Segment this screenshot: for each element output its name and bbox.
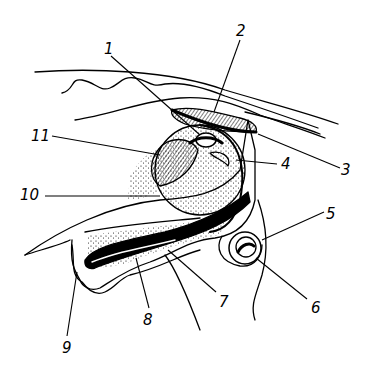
label-7: 7 xyxy=(219,295,229,310)
label-9: 9 xyxy=(62,341,72,356)
label-5: 5 xyxy=(326,207,336,222)
label-8: 8 xyxy=(143,313,153,328)
label-4: 4 xyxy=(281,157,291,172)
diagram-canvas: 1 2 3 4 5 6 7 8 9 10 11 xyxy=(0,0,375,377)
label-10: 10 xyxy=(20,188,39,203)
label-3: 3 xyxy=(341,163,351,178)
label-11: 11 xyxy=(31,129,50,144)
label-1: 1 xyxy=(104,42,114,57)
anatomy-drawing xyxy=(0,0,375,377)
label-2: 2 xyxy=(236,24,246,39)
label-6: 6 xyxy=(311,301,321,316)
